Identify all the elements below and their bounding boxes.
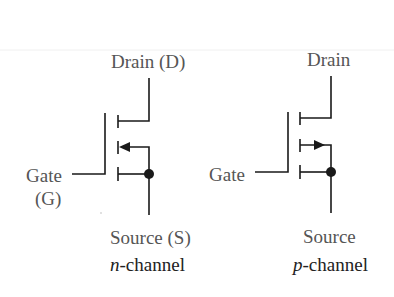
p-source-label: Source [303, 227, 356, 246]
p-drain-lead [300, 76, 331, 118]
n-gate-lead [72, 113, 105, 174]
p-gate-label: Gate [209, 165, 245, 184]
p-arrow-icon [314, 140, 325, 150]
mosfet-diagram: Drain (D) Gate (G) Source (S) n-channel … [0, 0, 394, 297]
n-caption-prefix: n [110, 254, 120, 275]
n-drain-lead [118, 78, 149, 121]
n-caption-suffix: -channel [120, 254, 185, 275]
p-caption-suffix: -channel [303, 254, 368, 275]
speck [100, 212, 102, 214]
p-caption-prefix: p [293, 254, 303, 275]
p-gate-lead [255, 112, 288, 172]
p-source-lead [300, 145, 331, 213]
n-junction-dot [144, 169, 154, 179]
n-gate-label: Gate [26, 166, 62, 185]
p-channel-caption: p-channel [293, 255, 368, 274]
n-source-lead [126, 147, 149, 215]
p-junction-dot [326, 167, 336, 177]
n-arrow-icon [119, 142, 130, 152]
n-channel-caption: n-channel [110, 255, 185, 274]
n-drain-label: Drain (D) [111, 52, 185, 71]
n-channel-symbol [72, 78, 149, 215]
mosfet-symbols [0, 0, 394, 297]
n-source-label: Source (S) [110, 228, 191, 247]
p-drain-label: Drain [307, 50, 350, 69]
n-gate-abbrev-label: (G) [35, 189, 61, 208]
